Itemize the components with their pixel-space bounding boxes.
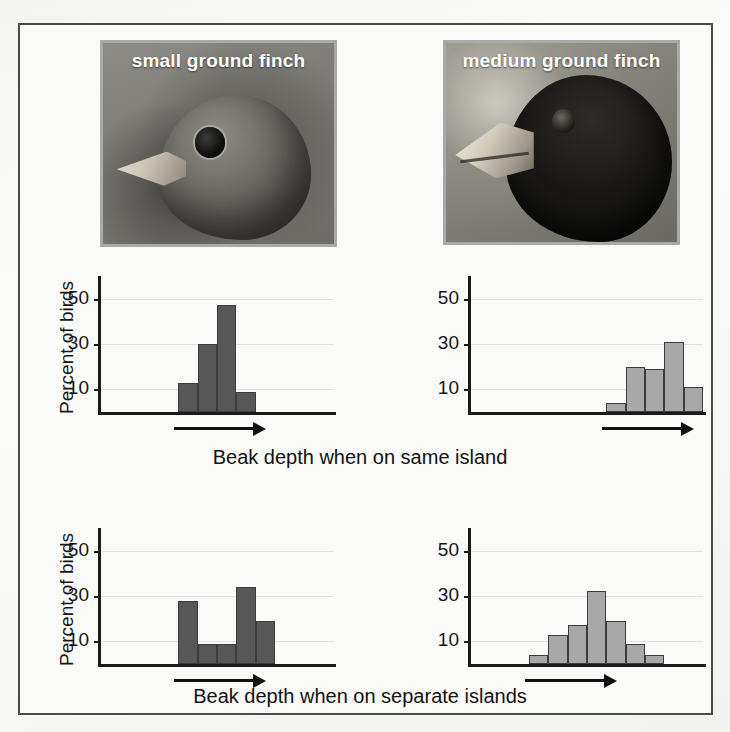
x-axis-line [98, 412, 336, 415]
photo-medium-ground-finch: medium ground finch [443, 40, 680, 245]
bar-series [471, 276, 703, 412]
y-axis-tick-label: 50 [59, 539, 89, 561]
chart-medium-finch-same-island: 103050 [410, 268, 710, 428]
y-axis-tick-label: 30 [59, 584, 89, 606]
caption-same-island: Beak depth when on same island [60, 446, 660, 469]
beak-depth-direction-arrow [174, 422, 266, 436]
histogram-bar [568, 625, 587, 664]
x-axis-line [98, 664, 336, 667]
histogram-bar [236, 587, 255, 664]
y-axis-line [468, 528, 471, 667]
arrow-shaft [525, 679, 605, 682]
histogram-bar [217, 305, 236, 412]
photo-caption-medium-ground-finch: medium ground finch [446, 50, 677, 72]
histogram-bar [529, 655, 548, 664]
y-axis-tick-label: 30 [429, 584, 459, 606]
photo-background [446, 43, 677, 242]
x-axis-line [468, 664, 706, 667]
arrow-shaft [174, 679, 254, 682]
photo-small-ground-finch: small ground finch [100, 40, 337, 247]
beak-depth-direction-arrow [602, 422, 694, 436]
y-axis-tick-label: 50 [429, 539, 459, 561]
histogram-bar [626, 367, 645, 412]
histogram-bar [256, 621, 275, 664]
arrow-shaft [602, 427, 682, 430]
chart-medium-finch-separate-islands: 103050 [410, 520, 710, 680]
histogram-bar [198, 644, 217, 664]
arrow-head-icon [253, 422, 266, 436]
bar-series [101, 276, 333, 412]
bar-series [471, 528, 703, 664]
y-axis-tick-label: 10 [59, 377, 89, 399]
histogram-bar [548, 635, 567, 664]
y-axis-tick-label: 10 [429, 629, 459, 651]
histogram-bar [606, 403, 625, 412]
finch-beak-shape [117, 152, 186, 186]
photo-background [103, 43, 334, 244]
y-axis-tick-label: 10 [429, 377, 459, 399]
chart-small-finch-separate-islands: Percent of birds103050 [40, 520, 340, 680]
x-axis-line [468, 412, 706, 415]
arrow-shaft [174, 427, 254, 430]
y-axis-tick-label: 50 [59, 287, 89, 309]
histogram-bar [606, 621, 625, 664]
plot-area [471, 276, 703, 412]
y-axis-tick-label: 50 [429, 287, 459, 309]
y-axis-tick-label: 30 [59, 332, 89, 354]
y-axis-tick-label: 10 [59, 629, 89, 651]
caption-separate-islands: Beak depth when on separate islands [60, 685, 660, 708]
histogram-bar [178, 383, 197, 412]
y-axis-line [468, 276, 471, 415]
histogram-bar [645, 369, 664, 412]
histogram-bar [626, 644, 645, 664]
histogram-bar [178, 601, 197, 664]
finch-beak-depth-figure: small ground finch medium ground finch P… [0, 0, 730, 732]
histogram-bar [645, 655, 664, 664]
plot-area [471, 528, 703, 664]
finch-beak-shape [455, 123, 534, 179]
photo-caption-small-ground-finch: small ground finch [103, 50, 334, 72]
histogram-bar [198, 344, 217, 412]
bar-series [101, 528, 333, 664]
y-axis-line [98, 528, 101, 667]
histogram-bar [684, 387, 703, 412]
arrow-head-icon [681, 422, 694, 436]
plot-area [101, 528, 333, 664]
y-axis-line [98, 276, 101, 415]
chart-small-finch-same-island: Percent of birds103050 [40, 268, 340, 428]
plot-area [101, 276, 333, 412]
y-axis-tick-label: 30 [429, 332, 459, 354]
finch-eye-shape [195, 127, 225, 157]
histogram-bar [587, 591, 606, 664]
histogram-bar [236, 392, 255, 412]
histogram-bar [217, 644, 236, 664]
finch-eye-shape [552, 109, 575, 133]
histogram-bar [664, 342, 683, 412]
